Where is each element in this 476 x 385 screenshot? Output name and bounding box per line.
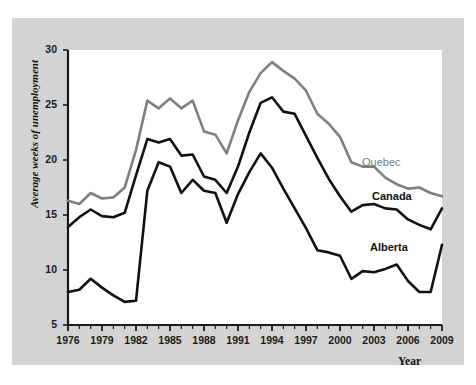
x-axis-title: Year	[398, 355, 421, 367]
series-line-quebec	[68, 62, 442, 204]
chart-page: 5101520253019761979198219851988199119941…	[0, 0, 476, 385]
series-line-alberta	[68, 153, 442, 302]
series-lines	[68, 62, 442, 302]
series-label-quebec: Quebec	[362, 156, 401, 168]
x-tick-label: 2009	[422, 334, 462, 346]
y-tick-label: 5	[35, 318, 57, 330]
series-label-alberta: Alberta	[370, 241, 408, 253]
series-label-canada: Canada	[372, 190, 412, 202]
y-tick-label: 10	[35, 263, 57, 275]
y-axis-title: Average weeks of unemployment	[28, 24, 40, 244]
